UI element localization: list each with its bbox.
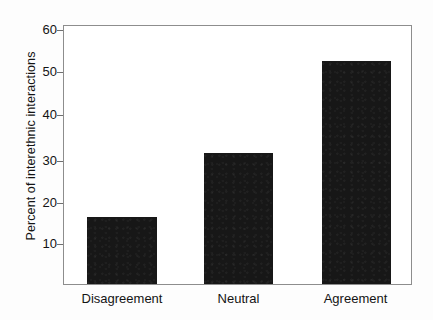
bar-agreement[interactable] bbox=[322, 61, 391, 284]
plot-area bbox=[63, 25, 412, 285]
x-axis-label-agreement: Agreement bbox=[303, 291, 408, 306]
y-axis-tick-40: 40 bbox=[0, 108, 57, 122]
y-axis-tick-20: 20 bbox=[0, 196, 57, 210]
y-axis-tick-50: 50 bbox=[0, 65, 57, 79]
y-axis-tick-label-10: 10 bbox=[27, 237, 57, 250]
y-axis-tick-label-30: 30 bbox=[27, 154, 57, 167]
y-axis-tick-label-20: 20 bbox=[27, 196, 57, 209]
bar-chart-figure: Percent of interethnic interactions 60 5… bbox=[0, 0, 433, 320]
bar-disagreement[interactable] bbox=[87, 217, 157, 284]
bar-neutral[interactable] bbox=[204, 153, 273, 284]
y-axis-tick-label-60: 60 bbox=[27, 23, 57, 36]
y-axis-tick-30: 30 bbox=[0, 154, 57, 168]
y-axis-tick-label-40: 40 bbox=[27, 108, 57, 121]
x-axis-label-neutral: Neutral bbox=[186, 291, 291, 306]
y-axis-tick-label-50: 50 bbox=[27, 65, 57, 78]
x-axis-label-disagreement: Disagreement bbox=[62, 291, 182, 306]
y-axis-tick-60: 60 bbox=[0, 23, 57, 37]
y-axis-tick-10: 10 bbox=[0, 237, 57, 251]
